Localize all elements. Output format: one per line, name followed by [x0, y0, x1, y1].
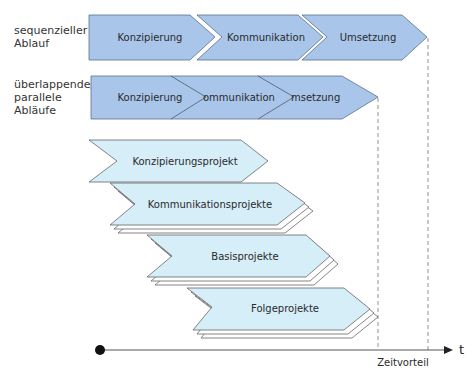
project-basis-label: Basisprojekte — [211, 251, 278, 262]
process-diagram: Konzipierung Kommunikation Umsetzung Kon… — [0, 0, 473, 373]
project-kommunikation: Kommunikationsprojekte — [110, 183, 313, 233]
phase-kommunikation-label: Kommunikation — [227, 32, 305, 43]
axis-arrowhead-icon — [444, 346, 453, 354]
parallel-konzipierung-label: Konzipierung — [118, 92, 183, 103]
phase-konzipierung-label: Konzipierung — [118, 32, 183, 43]
sequential-row: Konzipierung Kommunikation Umsetzung — [89, 15, 427, 60]
axis-label: t — [459, 342, 464, 357]
axis-start-dot-icon — [95, 345, 105, 355]
project-konzipierung: Konzipierungsprojekt — [89, 140, 268, 182]
project-kommunikation-label: Kommunikationsprojekte — [148, 199, 272, 210]
project-basis: Basisprojekte — [147, 235, 338, 285]
parallel-row: Konzipierung ommunikation msetzung — [91, 76, 378, 119]
time-advantage-label: Zeitvorteil — [377, 357, 428, 368]
project-konzipierung-label: Konzipierungsprojekt — [132, 156, 237, 167]
project-folge-label: Folgeprojekte — [251, 303, 319, 314]
time-axis: t Zeitvorteil — [95, 342, 464, 368]
parallel-umsetzung-label: msetzung — [291, 92, 340, 103]
phase-umsetzung-label: Umsetzung — [340, 32, 397, 43]
project-folge: Folgeprojekte — [187, 288, 378, 338]
parallel-kommunikation-label: ommunikation — [203, 92, 275, 103]
